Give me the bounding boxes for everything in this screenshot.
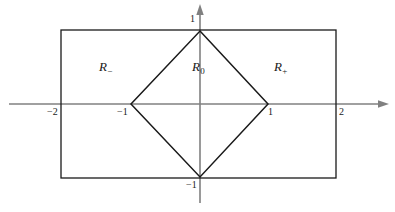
tick-label-y-plus-1: 1 [190,14,195,24]
tick-label-x-minus-2: −2 [47,107,58,117]
region-minus-base: R [99,59,107,74]
region-label-plus: R+ [274,60,287,76]
tick-label-x-plus-2: 2 [339,107,344,117]
region-plus-base: R [274,59,282,74]
region-label-minus: R− [99,60,112,76]
tick-label-y-minus-1: −1 [186,180,197,190]
region-label-zero: R0 [192,60,205,76]
region-plus-subscript: + [282,66,287,76]
region-zero-base: R [192,59,200,74]
region-zero-subscript: 0 [200,66,205,76]
tick-label-x-plus-1: 1 [268,107,273,117]
tick-label-x-minus-1: −1 [117,107,128,117]
y-axis-arrow-icon [196,4,203,15]
diagram-canvas [0,0,395,212]
region-minus-subscript: − [107,66,112,76]
figure-root: R− R0 R+ −2 −1 1 2 1 −1 [0,0,395,212]
x-axis-arrow-icon [378,100,389,107]
